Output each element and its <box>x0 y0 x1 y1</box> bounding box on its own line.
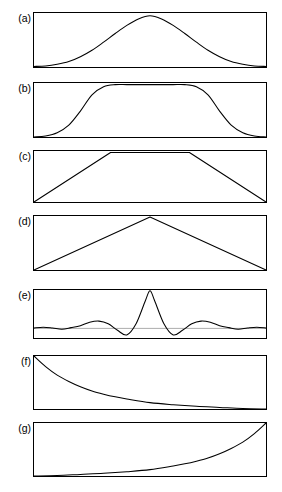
panel-f-svg <box>34 356 266 409</box>
panel-label-b: (b) <box>4 82 31 94</box>
panel-d-svg <box>34 216 266 270</box>
panel-e-svg <box>34 290 266 338</box>
panel-b-svg <box>34 83 266 137</box>
panel-label-c: (c) <box>4 150 31 162</box>
panel-label-a: (a) <box>4 12 31 24</box>
panel-plot-d <box>33 215 267 271</box>
panel-a-svg <box>34 13 266 67</box>
panel-plot-g <box>33 422 267 477</box>
curve-trapezoid <box>34 153 266 202</box>
panel-label-g: (g) <box>4 422 31 434</box>
panel-row-b: (b) <box>0 82 282 138</box>
panel-c-svg <box>34 151 266 202</box>
curve-triangle <box>34 217 266 270</box>
panel-row-a: (a) <box>0 12 282 68</box>
panel-row-d: (d) <box>0 215 282 271</box>
panel-row-f: (f) <box>0 355 282 410</box>
panel-row-e: (e) <box>0 289 282 339</box>
panel-label-f: (f) <box>4 355 31 367</box>
curve-exponential-decay <box>34 356 266 409</box>
curve-gaussian <box>34 16 266 67</box>
panel-plot-e <box>33 289 267 339</box>
panel-plot-c <box>33 150 267 203</box>
panel-label-d: (d) <box>4 215 31 227</box>
curve-exponential-rise <box>34 423 266 476</box>
figure-waveform-panels: (a) (b) (c) (d) <box>0 0 282 492</box>
panel-g-svg <box>34 423 266 476</box>
panel-plot-b <box>33 82 267 138</box>
panel-label-e: (e) <box>4 289 31 301</box>
curve-flat-top <box>34 84 266 137</box>
panel-plot-a <box>33 12 267 68</box>
panel-row-g: (g) <box>0 422 282 477</box>
panel-row-c: (c) <box>0 150 282 203</box>
panel-plot-f <box>33 355 267 410</box>
